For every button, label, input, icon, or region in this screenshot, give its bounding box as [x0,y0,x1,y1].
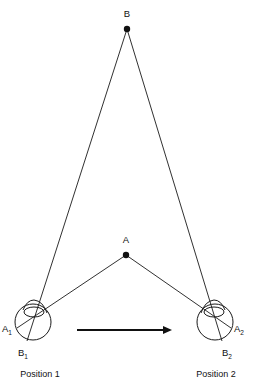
diagram-svg: B A A1 B1 A2 B2 Position 1 Position 2 [0,0,260,384]
label-B1-subscript: 1 [24,353,28,360]
eye-1-group [15,300,51,340]
label-B2: B2 [222,347,232,360]
point-A-marker [123,252,129,258]
label-point-A: A [123,234,130,245]
label-B2-subscript: 2 [228,353,232,360]
label-position-1: Position 1 [20,369,60,379]
label-position-2: Position 2 [196,369,236,379]
point-B-marker [124,26,130,32]
label-B1: B1 [18,347,28,360]
label-A2-subscript: 2 [240,329,244,336]
sight-lines-group [17,29,231,341]
label-A1: A1 [2,323,12,336]
translation-arrow [77,326,172,334]
label-A1-subscript: 1 [8,329,12,336]
sight-line-eye2-to-B [127,29,222,341]
eye-2-group [197,300,233,340]
figure-canvas: B A A1 B1 A2 B2 Position 1 Position 2 [0,0,260,384]
label-A2: A2 [234,323,244,336]
label-point-B: B [124,8,130,19]
translation-arrow-head [163,326,172,334]
sight-line-eye1-to-B [27,29,127,341]
